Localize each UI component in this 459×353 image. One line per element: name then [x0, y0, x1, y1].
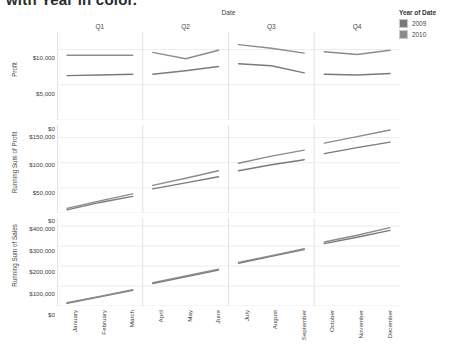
y-tick-label: $100,000 — [29, 160, 55, 167]
x-tick-november: November — [343, 309, 372, 353]
x-tick-label: July — [243, 310, 250, 321]
quarter-header-q2: Q2 — [143, 20, 229, 32]
y-tick-label: $0 — [48, 311, 55, 318]
panel-running-sum-profit — [57, 125, 400, 213]
x-axis-month-labels: January February March April May June Ju… — [57, 309, 400, 353]
plot-area-running-sum-sales — [57, 218, 400, 306]
y-tick-label: $300,000 — [29, 246, 55, 253]
plot-area-profit — [57, 32, 400, 120]
x-tick-april: April — [143, 309, 172, 353]
x-tick-label: February — [100, 310, 107, 335]
y-axis-panel-0: Profit $10,000 $5,000 $0 — [8, 32, 55, 120]
y-tick-label: $150,000 — [29, 132, 55, 139]
y-tick-label: $5,000 — [36, 89, 55, 96]
x-tick-june: June — [200, 309, 229, 353]
x-tick-label: October — [328, 310, 335, 332]
x-tick-label: December — [386, 310, 393, 339]
y-axis-panel-2: Running Sum of Sales $400,000 $300,000 $… — [8, 218, 55, 306]
x-tick-august: August — [257, 309, 286, 353]
panel-profit — [57, 32, 400, 120]
x-tick-label: May — [186, 310, 193, 322]
x-tick-label: June — [214, 310, 221, 323]
x-tick-may: May — [171, 309, 200, 353]
x-tick-december: December — [371, 309, 400, 353]
x-tick-october: October — [314, 309, 343, 353]
y-tick-label: $50,000 — [33, 189, 55, 196]
x-tick-march: March — [114, 309, 143, 353]
quarter-header-q4: Q4 — [314, 20, 400, 32]
legend-item-2009[interactable]: 2009 — [399, 19, 459, 28]
x-tick-january: January — [57, 309, 86, 353]
legend: Year of Date 2009 2010 — [399, 9, 459, 41]
column-header-date: Date — [57, 9, 400, 16]
x-tick-label: September — [300, 310, 307, 340]
x-tick-label: August — [271, 310, 278, 329]
legend-swatch-icon — [399, 19, 408, 28]
y-tick-label: $100,000 — [29, 289, 55, 296]
x-tick-label: January — [71, 310, 78, 332]
legend-item-2010[interactable]: 2010 — [399, 30, 459, 39]
panel-running-sum-sales — [57, 218, 400, 306]
y-axis-panel-1: Running Sum of Profit $150,000 $100,000 … — [8, 125, 55, 213]
y-axis-title-running-sum-profit: Running Sum of Profit — [11, 131, 18, 195]
x-tick-label: March — [128, 310, 135, 327]
legend-swatch-icon — [399, 30, 408, 39]
x-tick-september: September — [286, 309, 315, 353]
y-axis-title-running-sum-sales: Running Sum of Sales — [11, 224, 18, 288]
x-tick-february: February — [86, 309, 115, 353]
y-tick-label: $200,000 — [29, 268, 55, 275]
plot-area-running-sum-profit — [57, 125, 400, 213]
y-axis-title-profit: Profit — [11, 44, 18, 96]
x-tick-label: November — [357, 310, 364, 339]
quarter-header-q3: Q3 — [229, 20, 315, 32]
quarter-header-q1: Q1 — [57, 20, 143, 32]
x-tick-july: July — [228, 309, 257, 353]
page-title: with Year in color. — [6, 0, 137, 8]
y-tick-label: $400,000 — [29, 225, 55, 232]
legend-title: Year of Date — [399, 9, 459, 16]
legend-item-label: 2009 — [412, 20, 426, 27]
x-tick-label: April — [157, 310, 164, 322]
y-tick-label: $10,000 — [33, 54, 55, 61]
quarter-header-row: Q1 Q2 Q3 Q4 — [57, 20, 400, 32]
chart-root: with Year in color. Year of Date 2009 20… — [0, 0, 459, 353]
legend-item-label: 2010 — [412, 31, 426, 38]
